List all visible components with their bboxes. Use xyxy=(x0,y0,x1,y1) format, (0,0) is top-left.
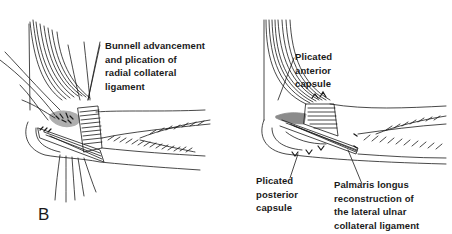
palmaris-longus-reconstruction-label: Palmaris longus reconstruction of the la… xyxy=(334,178,419,232)
label-line: Bunnell advancement xyxy=(105,39,205,53)
label-line: capsule xyxy=(256,201,298,215)
plication-knot-cluster xyxy=(50,111,79,126)
label-line: anterior xyxy=(295,64,332,78)
leader-line-left xyxy=(88,45,100,100)
upper-arm-fibers xyxy=(29,20,90,110)
label-line: Plicated xyxy=(256,174,298,188)
ligament-block xyxy=(304,104,338,136)
suture-strands-lower xyxy=(55,155,96,202)
label-line: radial collateral xyxy=(105,66,205,80)
label-line: and plication of xyxy=(105,53,205,67)
collateral-ligament-block xyxy=(78,106,102,152)
forearm-muscles xyxy=(354,116,446,158)
label-line: ligament xyxy=(105,80,205,94)
posterior-capsule-stitches xyxy=(292,146,324,156)
plicated-anterior-capsule-label: Plicated anterior capsule xyxy=(295,50,332,91)
capsule-origin xyxy=(276,113,306,124)
tendon-strip xyxy=(38,127,104,162)
leader-line-anterior xyxy=(278,58,294,100)
panel-letter: B xyxy=(38,205,49,225)
elbow-advancement-drawing xyxy=(0,0,226,234)
forearm-muscles xyxy=(102,120,210,156)
label-line: the lateral ulnar xyxy=(334,205,419,219)
label-line: reconstruction of xyxy=(334,192,419,206)
label-line: Plicated xyxy=(295,50,332,64)
label-line: posterior xyxy=(256,188,298,202)
plicated-posterior-capsule-label: Plicated posterior capsule xyxy=(256,174,298,215)
bunnell-advancement-label: Bunnell advancement and plication of rad… xyxy=(105,39,205,93)
left-panel-illustration: Bunnell advancement and plication of rad… xyxy=(0,0,226,234)
label-line: capsule xyxy=(295,77,332,91)
label-line: collateral ligament xyxy=(334,219,419,233)
label-line: Palmaris longus xyxy=(334,178,419,192)
right-panel-illustration: Plicated anterior capsule Plicated poste… xyxy=(226,0,452,234)
palmaris-longus-graft xyxy=(280,120,358,154)
